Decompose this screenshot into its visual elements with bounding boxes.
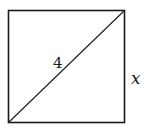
square-diagram: 4 x <box>0 0 146 124</box>
diagonal-length-label: 4 <box>53 54 63 72</box>
diagonal-line <box>9 11 125 123</box>
side-length-label: x <box>131 68 141 88</box>
